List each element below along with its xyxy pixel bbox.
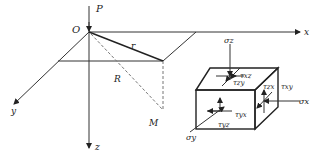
radius-line bbox=[89, 32, 163, 61]
y-axis-label: y bbox=[10, 106, 17, 116]
stress-element: σz τxz τzy τzx τxy σx τyx τyz σy bbox=[186, 36, 309, 142]
diagram-canvas: P O x y z r R M σz τxz τzy τzx τxy σx τy… bbox=[0, 0, 314, 156]
radius-label: r bbox=[131, 41, 136, 51]
tau-zx-label: τzx bbox=[263, 83, 275, 91]
sigma-z-label: σz bbox=[224, 36, 234, 45]
z-axis-label: z bbox=[94, 142, 100, 152]
point-label: M bbox=[148, 118, 159, 128]
sigma-x-label: σx bbox=[299, 97, 309, 106]
tau-xy-label: τxy bbox=[281, 83, 294, 91]
projection-line bbox=[163, 32, 196, 61]
y-axis bbox=[14, 32, 89, 104]
distance-label: R bbox=[113, 74, 121, 84]
tau-yz-label: τyz bbox=[218, 121, 230, 129]
sigma-y-label: σy bbox=[186, 133, 196, 142]
x-axis-label: x bbox=[304, 27, 309, 37]
tau-yx-label: τyx bbox=[235, 111, 247, 119]
tau-zy-label: τzy bbox=[233, 79, 246, 87]
load-label: P bbox=[95, 3, 103, 14]
distance-dashed-line bbox=[91, 34, 163, 110]
origin-label: O bbox=[72, 24, 80, 35]
